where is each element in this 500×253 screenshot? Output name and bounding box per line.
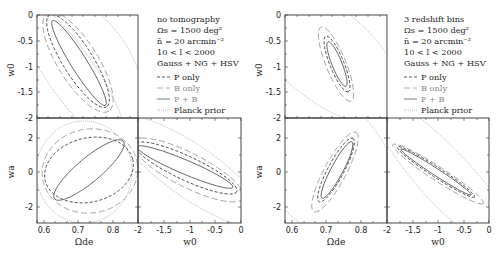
svg-text:0.7: 0.7 — [320, 226, 333, 235]
svg-text:-2: -2 — [273, 203, 281, 212]
svg-text:0: 0 — [238, 226, 243, 235]
svg-text:2: 2 — [276, 134, 281, 143]
planck-contour — [0, 0, 141, 159]
svg-text:-0.5: -0.5 — [17, 37, 33, 46]
svg-text:0: 0 — [28, 11, 33, 20]
x-axis-label-omega-de: Ωde — [75, 237, 94, 247]
y-axis-label-wa-right: wa — [254, 165, 264, 179]
svg-text:-2: -2 — [134, 226, 142, 235]
svg-text:0: 0 — [486, 226, 491, 235]
figure-canvas: 0 -0.5 -1 -1.5 -2 2 0 -2 0.6 0.7 0.8 -2 … — [0, 0, 500, 253]
svg-text:P only: P only — [421, 72, 447, 82]
y-axis-label-w0: w0 — [6, 63, 16, 77]
svg-text:n̄ = 20 arcmin⁻²: n̄ = 20 arcmin⁻² — [157, 36, 224, 46]
x-axis-label-omega-de-right: Ωde — [327, 237, 346, 247]
svg-text:Gauss + NG + HSV: Gauss + NG + HSV — [157, 58, 240, 68]
svg-text:0: 0 — [276, 11, 281, 20]
svg-text:-1: -1 — [25, 63, 33, 72]
panel-omega-w0-right — [285, 15, 387, 118]
right-figure: 0 -0.5 -1 -1.5 -2 2 0 -2 0.6 0.7 0.8 -2 … — [254, 11, 492, 247]
svg-text:-2: -2 — [25, 203, 33, 212]
svg-text:Gauss + NG + HSV: Gauss + NG + HSV — [404, 58, 487, 68]
b-only-contour — [30, 2, 125, 122]
svg-text:10 < l < 2000: 10 < l < 2000 — [404, 47, 462, 57]
svg-text:-1.5: -1.5 — [265, 88, 281, 97]
y-axis-label-w0-right: w0 — [254, 63, 264, 77]
svg-text:0.8: 0.8 — [355, 226, 368, 235]
legend-right: 3 redshift bins Ωs = 1500 deg² n̄ = 20 a… — [404, 14, 487, 115]
legend-left: no tomography Ωs = 1500 deg² n̄ = 20 arc… — [157, 14, 240, 115]
svg-text:-1: -1 — [434, 226, 442, 235]
panel-w0-wa-right — [387, 118, 489, 223]
svg-text:P only: P only — [174, 72, 200, 82]
svg-text:n̄ = 20 arcmin⁻²: n̄ = 20 arcmin⁻² — [404, 36, 471, 46]
svg-text:-2: -2 — [383, 226, 391, 235]
svg-text:-2: -2 — [273, 114, 281, 123]
svg-text:3 redshift bins: 3 redshift bins — [404, 14, 464, 24]
svg-text:-2: -2 — [25, 114, 33, 123]
panel-omega-w0-left — [0, 0, 141, 159]
svg-text:Ωs = 1500 deg²: Ωs = 1500 deg² — [404, 25, 469, 35]
svg-text:-1.5: -1.5 — [405, 226, 421, 235]
svg-text:Ωs = 1500 deg²: Ωs = 1500 deg² — [157, 25, 222, 35]
svg-text:-1: -1 — [273, 63, 281, 72]
svg-text:B only: B only — [174, 83, 200, 93]
svg-text:2: 2 — [28, 134, 33, 143]
svg-text:B only: B only — [421, 83, 447, 93]
svg-text:10 < l < 2000: 10 < l < 2000 — [157, 47, 215, 57]
svg-text:0.6: 0.6 — [38, 226, 51, 235]
svg-text:0: 0 — [28, 168, 33, 177]
x-axis-label-w0-right: w0 — [431, 237, 445, 247]
svg-text:0: 0 — [276, 168, 281, 177]
svg-text:Planck prior: Planck prior — [174, 105, 225, 115]
svg-text:-1.5: -1.5 — [156, 226, 172, 235]
svg-text:no tomography: no tomography — [157, 14, 220, 24]
y-axis-label-wa: wa — [6, 165, 16, 179]
svg-text:0.6: 0.6 — [286, 226, 299, 235]
svg-text:P + B: P + B — [174, 94, 198, 104]
svg-text:-1: -1 — [186, 226, 194, 235]
svg-text:0.8: 0.8 — [107, 226, 120, 235]
svg-text:P + B: P + B — [421, 94, 445, 104]
svg-text:-1.5: -1.5 — [17, 88, 33, 97]
svg-text:Planck prior: Planck prior — [421, 105, 472, 115]
panel-omega-wa-left — [35, 121, 144, 223]
svg-text:-0.5: -0.5 — [207, 226, 223, 235]
panel-omega-wa-right — [285, 118, 387, 223]
x-axis-label-w0: w0 — [183, 237, 197, 247]
svg-text:0.7: 0.7 — [72, 226, 85, 235]
p-only-contour — [37, 7, 120, 114]
left-figure: 0 -0.5 -1 -1.5 -2 2 0 -2 0.6 0.7 0.8 -2 … — [0, 0, 281, 247]
svg-text:-0.5: -0.5 — [456, 226, 472, 235]
svg-text:-0.5: -0.5 — [265, 37, 281, 46]
